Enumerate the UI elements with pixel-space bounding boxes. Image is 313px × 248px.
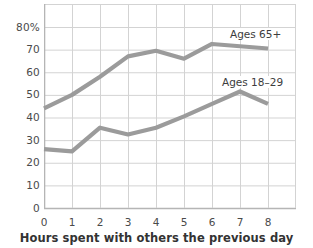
y-axis-tick-label: 0 <box>0 203 40 214</box>
series-label-ages-18-29: Ages 18–29 <box>220 76 285 88</box>
y-axis-tick-label: 30 <box>0 135 40 146</box>
y-axis-tick-label: 10 <box>0 180 40 191</box>
y-axis-tick-label: 40 <box>0 112 40 123</box>
y-axis-tick-label: 20 <box>0 157 40 168</box>
x-axis-tick-label: 2 <box>90 216 110 228</box>
y-axis-tick-label: 50 <box>0 89 40 100</box>
y-axis-tick-label: 70 <box>0 44 40 55</box>
x-axis-tick-label: 3 <box>118 216 138 228</box>
x-axis-tick-label: 5 <box>174 216 194 228</box>
series-label-ages-65-plus: Ages 65+ <box>228 28 283 40</box>
y-axis-labels: 80%706050403020100 <box>0 4 40 212</box>
x-axis-title: Hours spent with others the previous day <box>0 231 313 245</box>
x-axis-tick-label: 6 <box>202 216 222 228</box>
x-axis-tick-label: 7 <box>230 216 250 228</box>
y-axis-tick-label: 80% <box>0 22 40 33</box>
series-line-1 <box>44 91 268 151</box>
x-axis-labels: 012345678 <box>44 216 296 230</box>
x-axis-tick-label: 1 <box>62 216 82 228</box>
x-axis-tick-label: 8 <box>258 216 278 228</box>
line-chart: 80%706050403020100 012345678 Ages 65+ Ag… <box>0 0 313 248</box>
y-axis-tick-label: 60 <box>0 67 40 78</box>
x-axis-tick-label: 4 <box>146 216 166 228</box>
x-axis-tick-label: 0 <box>34 216 54 228</box>
